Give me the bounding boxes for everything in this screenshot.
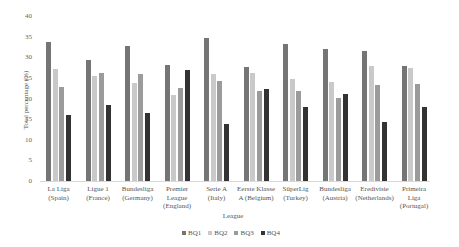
y-tick-label: 5 <box>20 156 32 164</box>
bar-bq3 <box>375 85 380 181</box>
legend-item-bq1: BQ1 <box>182 229 201 237</box>
legend-label: BQ4 <box>267 229 280 237</box>
legend-label: BQ3 <box>240 229 253 237</box>
x-category-label: Serie A(Italy) <box>195 185 239 202</box>
x-category-label: Bundesliga(Germany) <box>116 185 160 202</box>
bar-bq3 <box>415 84 420 181</box>
x-category-line: Bundesliga <box>116 185 160 194</box>
bar-bq4 <box>145 113 150 181</box>
bar-bq1 <box>244 67 249 181</box>
bar-bq3 <box>59 87 64 181</box>
legend: BQ1BQ2BQ3BQ4 <box>182 229 280 237</box>
bar-bq2 <box>290 79 295 181</box>
x-category-line: (France) <box>76 194 120 203</box>
x-category-label: PremierLeague(England) <box>155 185 199 211</box>
x-category-line: (Germany) <box>116 194 160 203</box>
bar-bq2 <box>369 66 374 181</box>
bar-bq4 <box>343 94 348 181</box>
bar-bq3 <box>257 91 262 181</box>
legend-item-bq3: BQ3 <box>234 229 253 237</box>
bar-bq3 <box>178 88 183 181</box>
bar-bq2 <box>329 82 334 181</box>
x-category-label: La Liga(Spain) <box>37 185 81 202</box>
x-category-line: Premier <box>155 185 199 194</box>
y-tick-label: 40 <box>20 12 32 20</box>
x-category-label: Bundesliga(Austria) <box>313 185 357 202</box>
bar-chart: Total percentage (%) 0510152025303540 La… <box>0 0 459 247</box>
y-tick-label: 30 <box>20 53 32 61</box>
bar-bq2 <box>171 95 176 181</box>
bar-bq3 <box>296 91 301 181</box>
x-category-label: Eerste KlasseA (Belgium) <box>234 185 278 202</box>
x-category-line: League <box>155 194 199 203</box>
bar-bq1 <box>46 42 51 181</box>
bar-bq4 <box>224 124 229 181</box>
x-category-line: Primeira <box>392 185 436 194</box>
y-tick-label: 0 <box>20 177 32 185</box>
bar-bq4 <box>422 107 427 181</box>
bar-bq4 <box>382 122 387 181</box>
y-tick-label: 15 <box>20 115 32 123</box>
x-category-line: (Netherlands) <box>353 194 397 203</box>
legend-item-bq2: BQ2 <box>208 229 227 237</box>
x-category-line: (Turkey) <box>274 194 318 203</box>
x-category-line: (Italy) <box>195 194 239 203</box>
bar-bq4 <box>264 89 269 181</box>
y-tick-label: 10 <box>20 136 32 144</box>
x-category-line: A (Belgium) <box>234 194 278 203</box>
bar-bq1 <box>283 44 288 181</box>
y-tick-label: 25 <box>20 74 32 82</box>
bar-bq2 <box>132 83 137 181</box>
legend-swatch-icon <box>182 231 186 235</box>
bar-bq3 <box>336 98 341 181</box>
bar-bq1 <box>165 65 170 181</box>
legend-swatch-icon <box>234 231 238 235</box>
x-category-label: PrimeiraLiga(Portugal) <box>392 185 436 211</box>
x-axis-title: League <box>223 212 244 220</box>
bar-bq2 <box>250 73 255 181</box>
bar-bq3 <box>138 74 143 181</box>
x-category-line: Eerste Klasse <box>234 185 278 194</box>
x-category-label: Ligue 1(France) <box>76 185 120 202</box>
bar-bq1 <box>86 60 91 181</box>
bar-bq4 <box>106 105 111 181</box>
bar-bq3 <box>99 73 104 181</box>
bar-bq2 <box>92 76 97 181</box>
x-category-line: Serie A <box>195 185 239 194</box>
y-tick-label: 20 <box>20 95 32 103</box>
x-category-line: SüperLig <box>274 185 318 194</box>
x-category-line: (England) <box>155 202 199 211</box>
legend-swatch-icon <box>261 231 265 235</box>
bar-bq4 <box>185 70 190 181</box>
bar-bq1 <box>323 49 328 181</box>
bar-bq1 <box>402 66 407 181</box>
bar-bq2 <box>408 68 413 181</box>
y-tick-label: 35 <box>20 33 32 41</box>
x-category-line: La Liga <box>37 185 81 194</box>
x-category-label: Eredivisie(Netherlands) <box>353 185 397 202</box>
x-category-label: SüperLig(Turkey) <box>274 185 318 202</box>
x-category-line: (Portugal) <box>392 202 436 211</box>
x-category-line: Ligue 1 <box>76 185 120 194</box>
bar-bq1 <box>204 38 209 181</box>
bar-bq2 <box>211 74 216 181</box>
x-category-line: Bundesliga <box>313 185 357 194</box>
x-axis-line <box>40 181 430 182</box>
x-category-line: Liga <box>392 194 436 203</box>
bar-bq2 <box>53 69 58 181</box>
bar-bq4 <box>66 115 71 181</box>
x-category-line: Eredivisie <box>353 185 397 194</box>
bar-bq1 <box>125 46 130 181</box>
x-category-line: (Spain) <box>37 194 81 203</box>
x-category-line: (Austria) <box>313 194 357 203</box>
bar-bq3 <box>217 81 222 181</box>
bar-bq4 <box>303 107 308 181</box>
legend-item-bq4: BQ4 <box>261 229 280 237</box>
bar-bq1 <box>362 51 367 181</box>
legend-label: BQ1 <box>188 229 201 237</box>
legend-label: BQ2 <box>214 229 227 237</box>
legend-swatch-icon <box>208 231 212 235</box>
